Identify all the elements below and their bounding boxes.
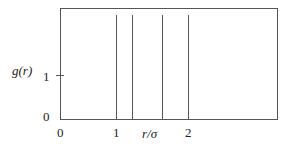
y-axis-label: g(r) xyxy=(12,64,32,77)
x-tick-label-2: 2 xyxy=(185,126,192,139)
peak-lines xyxy=(117,15,189,119)
plot-frame xyxy=(61,9,278,120)
x-axis-label: r/σ xyxy=(142,127,157,140)
y-tick-label-1: 1 xyxy=(43,70,50,83)
y-tick-label-0: 0 xyxy=(43,110,50,123)
x-tick-label-1: 1 xyxy=(113,126,120,139)
x-tick-label-0: 0 xyxy=(57,126,64,139)
